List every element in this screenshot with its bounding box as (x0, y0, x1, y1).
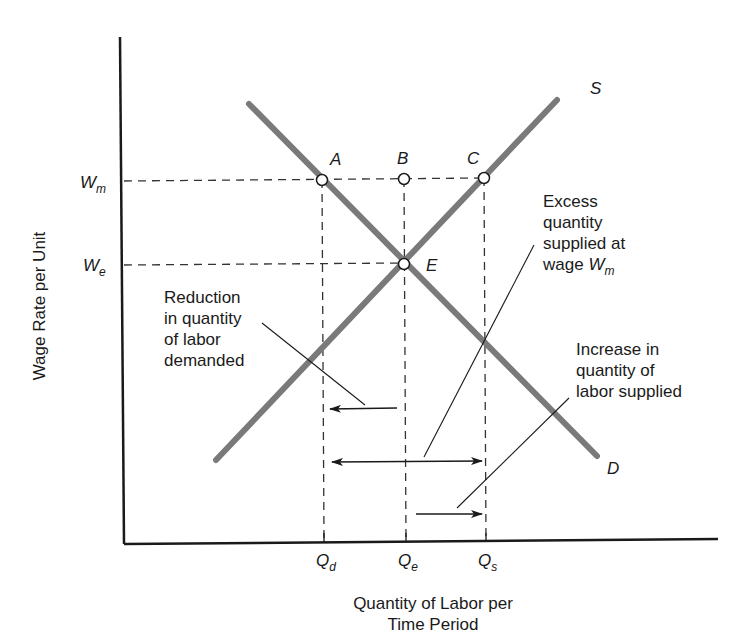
x-axis-title-line1: Quantity of Labor per (353, 594, 513, 613)
svg-text:quantity: quantity (543, 213, 603, 232)
label-c: C (467, 149, 480, 168)
svg-text:quantity of: quantity of (576, 361, 655, 380)
supply-curve (216, 100, 557, 460)
qs-guide (484, 178, 486, 540)
point-e (399, 259, 410, 270)
labor-market-diagram: A B C E S D Wm We Qd Qe Qs Quantity of L… (0, 0, 756, 642)
points (317, 173, 490, 270)
reduction-arrow (330, 408, 397, 409)
excess-arrow (332, 461, 482, 462)
annotation-excess: Excess quantity supplied at wage Wm (542, 192, 626, 278)
svg-text:wage Wm: wage Wm (542, 255, 614, 278)
svg-text:Reduction: Reduction (164, 288, 241, 307)
label-e: E (426, 256, 438, 275)
we-guide (124, 263, 404, 265)
qe-guide (404, 179, 406, 540)
qd-guide (322, 180, 324, 541)
x-tick-qd: Qd (316, 551, 336, 574)
annotation-reduction: Reduction in quantity of labor demanded (164, 288, 244, 370)
x-tick-qs: Qs (478, 551, 497, 574)
pointer-lines (262, 245, 569, 508)
y-tick-we: We (83, 256, 106, 279)
x-axis (124, 539, 718, 544)
y-axis-title: Wage Rate per Unit (30, 231, 49, 380)
y-tick-wm: Wm (80, 173, 106, 196)
annotation-increase: Increase in quantity of labor supplied (576, 340, 682, 401)
svg-text:Excess: Excess (543, 192, 598, 211)
x-tick-qe: Qe (398, 551, 418, 574)
x-axis-title-line2: Time Period (387, 615, 478, 634)
point-a (317, 175, 328, 186)
point-b (399, 174, 410, 185)
svg-text:labor supplied: labor supplied (576, 382, 682, 401)
demand-curve (249, 104, 597, 456)
svg-text:in quantity: in quantity (164, 309, 242, 328)
svg-text:demanded: demanded (164, 351, 244, 370)
y-axis (120, 37, 124, 544)
label-b: B (397, 149, 408, 168)
svg-text:supplied at: supplied at (543, 234, 626, 253)
excess-pointer (424, 245, 534, 457)
point-c (479, 173, 490, 184)
wm-guide (124, 178, 484, 181)
label-supply: S (590, 79, 602, 98)
svg-text:of labor: of labor (164, 330, 221, 349)
label-a: A (329, 150, 341, 169)
label-demand: D (607, 459, 619, 478)
increase-pointer (457, 398, 569, 508)
svg-text:Increase in: Increase in (576, 340, 659, 359)
